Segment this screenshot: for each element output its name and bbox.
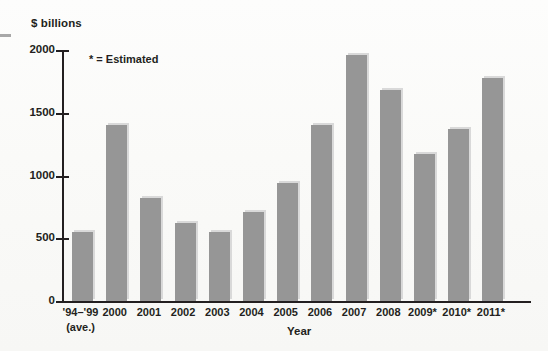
bar-series: [64, 50, 531, 301]
bar: [482, 78, 503, 301]
bar: [380, 90, 401, 301]
chart-figure: $ billions * = Estimated 050010001500200…: [0, 0, 548, 351]
bar: [414, 154, 435, 301]
y-tick-label: 1500: [29, 107, 55, 119]
x-axis-title: Year: [287, 325, 311, 337]
y-tick-label: 2000: [29, 44, 55, 56]
x-axis-line: [62, 301, 531, 303]
y-tick-label: 500: [36, 233, 55, 245]
page-edge-mark: [0, 34, 11, 37]
bar: [311, 125, 332, 301]
plot-area: 0500100015002000: [62, 50, 531, 303]
bar: [72, 232, 93, 301]
bar: [243, 212, 264, 301]
y-tick-label: 1000: [29, 170, 55, 182]
bar: [209, 232, 230, 301]
y-tick-mark: [56, 301, 69, 303]
bar: [277, 183, 298, 301]
x-tick-label-text: 2011*: [477, 306, 505, 318]
x-tick-label: 2011*: [465, 306, 517, 319]
bar: [448, 129, 469, 301]
y-axis-title: $ billions: [31, 17, 82, 29]
bar: [106, 125, 127, 301]
bar: [175, 223, 196, 301]
bar: [140, 198, 161, 301]
x-tick-sublabel: (ave.): [55, 321, 107, 334]
bar: [346, 55, 367, 301]
